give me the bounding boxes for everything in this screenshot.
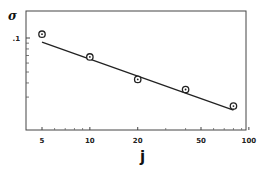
data-point [39,31,45,37]
x-tick-label: 20 [133,137,143,145]
data-point [135,76,141,82]
x-tick-label: 5 [40,137,45,145]
data-points [39,31,237,109]
plot-frame [26,11,246,130]
y-axis-ticks: .1 [12,35,30,97]
sigma-vs-j-chart: 5102050100 .1 σ j [0,0,264,171]
data-point [182,86,188,92]
y-axis-label: σ [8,9,17,23]
x-axis-label: j [139,148,145,166]
y-tick-label: .1 [12,35,20,43]
x-tick-label: 10 [85,137,95,145]
x-tick-label: 50 [196,137,206,145]
data-point [87,54,93,60]
data-point [230,103,236,109]
x-tick-label: 100 [242,137,257,145]
